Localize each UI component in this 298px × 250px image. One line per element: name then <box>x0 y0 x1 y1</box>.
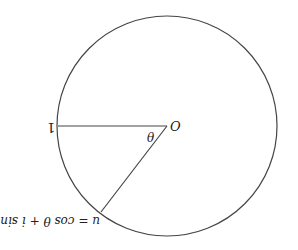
angle-label: θ <box>147 131 155 145</box>
point-u-label: u = cos θ + i sin θ <box>0 214 100 228</box>
one-label: 1 <box>47 120 55 135</box>
unit-circle-diagram: O θ 1 u = cos θ + i sin θ <box>0 0 298 250</box>
origin-label: O <box>170 119 181 134</box>
radius-to-u <box>101 126 167 212</box>
